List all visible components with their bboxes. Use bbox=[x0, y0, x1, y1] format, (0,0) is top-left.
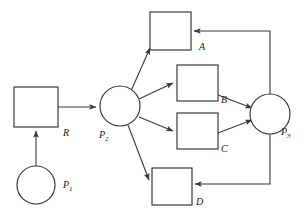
diagram-canvas: RABCDP1P2P3 bbox=[0, 0, 304, 219]
transition-a-label: A bbox=[198, 41, 206, 52]
transition-d[interactable] bbox=[152, 168, 192, 205]
edge-p2-b bbox=[139, 83, 173, 99]
transition-b[interactable] bbox=[177, 65, 218, 101]
transition-c-label: C bbox=[221, 143, 228, 154]
nodes-layer bbox=[14, 12, 290, 205]
transition-c[interactable] bbox=[177, 113, 218, 149]
transition-r[interactable] bbox=[14, 87, 58, 127]
transition-b-label: B bbox=[221, 94, 227, 105]
edges-layer bbox=[36, 31, 270, 184]
transition-r-label: R bbox=[62, 127, 69, 138]
petri-net-diagram: RABCDP1P2P3 bbox=[0, 0, 304, 219]
transition-d-label: D bbox=[195, 196, 204, 207]
place-p2-label: P2 bbox=[98, 129, 109, 143]
edge-p2-a bbox=[131, 48, 150, 91]
place-p1[interactable] bbox=[17, 166, 55, 204]
transition-a[interactable] bbox=[150, 12, 191, 50]
edge-p2-c bbox=[139, 117, 173, 131]
edge-p2-d bbox=[128, 125, 149, 180]
place-p2[interactable] bbox=[100, 86, 140, 126]
place-p1-label: P1 bbox=[62, 179, 73, 193]
edge-c-p3 bbox=[218, 120, 252, 133]
place-p3-label: P3 bbox=[280, 126, 291, 140]
